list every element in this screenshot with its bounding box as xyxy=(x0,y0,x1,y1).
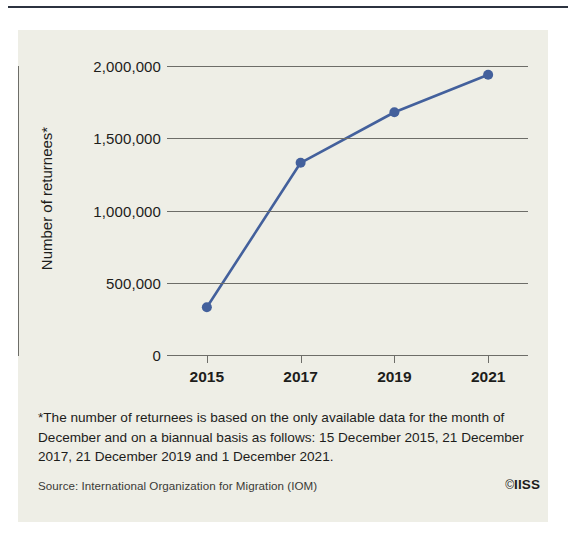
y-tick-label: 1,000,000 xyxy=(93,202,161,219)
copyright-label: ©IISS xyxy=(505,477,540,492)
gridline xyxy=(167,283,528,284)
data-point-marker xyxy=(296,158,306,168)
footnote-text: *The number of returnees is based on the… xyxy=(38,408,530,467)
source-text: Source: International Organization for M… xyxy=(38,479,317,492)
x-tick xyxy=(207,356,208,363)
x-tick-label: 2017 xyxy=(283,368,317,386)
x-tick-label: 2021 xyxy=(471,368,505,386)
copyright-owner: IISS xyxy=(514,477,540,492)
x-axis-tick-labels: 2015201720192021 xyxy=(167,368,528,390)
plot-area xyxy=(167,66,528,355)
y-tick-label: 1,500,000 xyxy=(93,130,161,147)
x-tick xyxy=(301,356,302,363)
data-point-marker xyxy=(483,70,493,80)
header-rule xyxy=(8,6,568,8)
x-tick xyxy=(488,356,489,363)
y-tick-label: 2,000,000 xyxy=(93,58,161,75)
y-tick-label: 0 xyxy=(153,347,161,364)
y-axis-tick-labels: 0500,0001,000,0001,500,0002,000,000 xyxy=(18,30,161,392)
copyright-icon: © xyxy=(505,478,514,492)
chart-area: Number of returnees* 0500,0001,000,0001,… xyxy=(18,30,548,392)
y-axis-line xyxy=(18,66,19,356)
gridline xyxy=(167,211,528,212)
data-point-marker xyxy=(389,107,399,117)
y-tick-label: 500,000 xyxy=(106,274,161,291)
gridline xyxy=(167,138,528,139)
data-point-marker xyxy=(202,302,212,312)
figure-panel: Number of returnees* 0500,0001,000,0001,… xyxy=(18,30,548,522)
x-tick xyxy=(394,356,395,363)
series-line xyxy=(207,75,488,308)
gridline xyxy=(167,66,528,67)
x-tick-label: 2019 xyxy=(377,368,411,386)
x-tick-label: 2015 xyxy=(190,368,224,386)
x-axis-ticks xyxy=(167,356,528,364)
